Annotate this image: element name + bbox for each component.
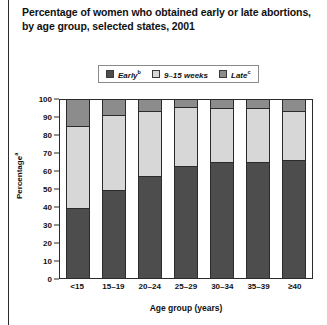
chart-title: Percentage of women who obtained early o… [22, 5, 322, 33]
y-axis-tick-label: 90 [34, 113, 52, 122]
stacked-bar [174, 100, 198, 278]
bar-segment-early [103, 191, 125, 278]
stacked-bar [282, 100, 306, 278]
bar-segment-late [211, 100, 233, 109]
bar-segment-late [175, 100, 197, 108]
y-axis-tick: 50 [34, 185, 59, 194]
x-axis-tick-label: 20–24 [135, 282, 165, 291]
bar-segment-early [175, 167, 197, 278]
y-axis-tick: 90 [34, 113, 59, 122]
legend-swatch-late [219, 70, 227, 78]
y-axis-tick-label: 80 [34, 131, 52, 140]
bar-segment-late [247, 100, 269, 109]
y-axis-tick-label: 0 [34, 275, 52, 284]
y-axis-tick: 20 [34, 239, 59, 248]
legend-item-9-15-weeks: 9–15 weeks [152, 69, 208, 80]
y-axis-title: Percentagea [13, 153, 24, 199]
bar-segment-late [139, 100, 161, 112]
x-axis-title: Age group (years) [59, 303, 313, 313]
chart-title-line-2: by age group, selected states, 2001 [22, 19, 322, 33]
bar-segment-late [103, 100, 125, 116]
y-axis-tick-label: 100 [34, 95, 52, 104]
bar-segment-9-15-weeks [103, 116, 125, 191]
bar-segment-early [247, 163, 269, 278]
x-axis-tick-label: <15 [62, 282, 92, 291]
y-axis-tick: 30 [34, 221, 59, 230]
y-axis-tick-label: 50 [34, 185, 52, 194]
bar-segment-9-15-weeks [67, 127, 89, 210]
legend-swatch-early [106, 70, 114, 78]
plot-area [59, 99, 313, 279]
bar-segment-early [67, 209, 89, 278]
bar-segment-late [67, 100, 89, 127]
y-axis-tick: 70 [34, 149, 59, 158]
legend-swatch-9-15-weeks [152, 70, 160, 78]
bar-segment-9-15-weeks [247, 109, 269, 163]
bar-segment-9-15-weeks [139, 112, 161, 177]
legend-label-early: Earlyb [118, 69, 141, 80]
stacked-bar [210, 100, 234, 278]
legend-label-late: Latec [231, 69, 251, 80]
chart-title-line-1: Percentage of women who obtained early o… [22, 5, 322, 19]
page-left-rule [8, 0, 9, 325]
y-axis-tick: 0 [34, 275, 59, 284]
stacked-bar [138, 100, 162, 278]
legend-item-late: Latec [219, 69, 251, 80]
bar-segment-late [283, 100, 305, 112]
y-axis: 0102030405060708090100 [30, 99, 59, 279]
stacked-bar [102, 100, 126, 278]
bar-segment-early [139, 177, 161, 278]
y-axis-tick-label: 60 [34, 167, 52, 176]
bar-segment-early [283, 161, 305, 278]
x-axis-tick-label: ≥40 [280, 282, 310, 291]
bar-segment-early [211, 163, 233, 278]
bar-segment-9-15-weeks [175, 108, 197, 167]
y-axis-tick-label: 30 [34, 221, 52, 230]
y-axis-tick-label: 40 [34, 203, 52, 212]
stacked-bar [66, 100, 90, 278]
x-axis-tick-label: 15–19 [98, 282, 128, 291]
y-axis-tick-label: 70 [34, 149, 52, 158]
y-axis-tick: 100 [34, 95, 59, 104]
x-axis-tick-label: 35–39 [244, 282, 274, 291]
y-axis-tick: 10 [34, 257, 59, 266]
y-axis-tick: 60 [34, 167, 59, 176]
x-axis-tick-label: 25–29 [171, 282, 201, 291]
x-axis-tick-label: 30–34 [207, 282, 237, 291]
bar-group [60, 100, 312, 278]
legend-label-9-15-weeks: 9–15 weeks [164, 69, 208, 80]
y-axis-tick: 40 [34, 203, 59, 212]
bar-segment-9-15-weeks [211, 109, 233, 163]
y-axis-tick-label: 10 [34, 257, 52, 266]
bar-segment-9-15-weeks [283, 112, 305, 160]
stacked-bar [246, 100, 270, 278]
legend-item-early: Earlyb [106, 69, 141, 80]
y-axis-tick-label: 20 [34, 239, 52, 248]
x-axis: <1515–1920–2425–2930–3435–39≥40 [59, 282, 313, 291]
chart-legend: Earlyb 9–15 weeks Latec [98, 65, 259, 83]
y-axis-tick: 80 [34, 131, 59, 140]
